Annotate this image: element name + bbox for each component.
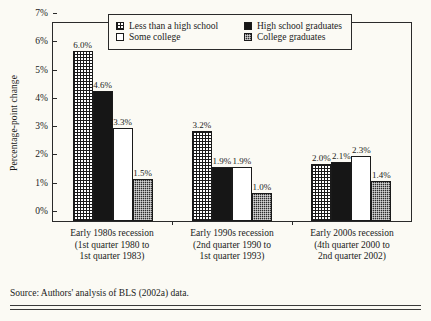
footer-rule-bottom (10, 309, 421, 310)
legend-item-college-graduates: College graduates (244, 32, 325, 42)
bar-value-label: 2.1% (332, 151, 351, 161)
category-line: (2nd quarter 1990 to (172, 240, 292, 252)
x-axis-group-separator (292, 221, 293, 225)
x-axis-category-3: Early 2000s recession(4th quarter 2000 t… (292, 228, 412, 263)
legend-label: Less than a high school (129, 21, 218, 31)
bar-value-label: 1.5% (133, 168, 152, 178)
bar: 3.3% (113, 128, 133, 221)
bar-value-label: 1.0% (253, 182, 272, 192)
bar: 1.0% (252, 193, 272, 221)
category-line: (4th quarter 2000 to (292, 240, 412, 252)
y-axis-tick-3: 3% (35, 121, 53, 131)
bar: 4.6% (93, 91, 113, 221)
bar-value-label: 4.6% (93, 80, 112, 90)
bar-value-label: 1.9% (233, 156, 252, 166)
legend-item-some-college: Some college (116, 32, 244, 42)
legend-item-less-than-high-school: Less than a high school (116, 21, 244, 31)
x-axis-category-labels: Early 1980s recession(1st quarter 1980 t… (52, 228, 412, 263)
bar-value-label: 2.3% (352, 145, 371, 155)
bar-value-label: 1.9% (213, 156, 232, 166)
bar: 2.1% (331, 162, 351, 221)
source-note: Source: Authors' analysis of BLS (2002a)… (10, 288, 189, 298)
y-axis-tick-7: 7% (35, 8, 53, 18)
x-axis-category-2: Early 1990s recession(2nd quarter 1990 t… (172, 228, 292, 263)
bar: 1.5% (133, 179, 153, 221)
category-line: (1st quarter 1980 to (52, 240, 172, 252)
bar: 1.4% (371, 181, 391, 221)
x-axis-category-1: Early 1980s recession(1st quarter 1980 t… (52, 228, 172, 263)
bar: 6.0% (73, 51, 93, 221)
y-axis-tick-5: 5% (35, 65, 53, 75)
x-axis-group-separator (172, 221, 173, 225)
y-axis-title: Percentage-point change (9, 43, 19, 203)
legend-swatch-solid-icon (244, 22, 252, 30)
legend-swatch-grid-icon (116, 22, 124, 30)
bar-group-1: 6.0%4.6%3.3%1.5% (53, 23, 172, 221)
legend-swatch-check-icon (244, 33, 252, 41)
y-axis-tick-6: 6% (35, 36, 53, 46)
y-axis-tick-0: 0% (35, 206, 53, 216)
category-line: 2nd quarter 2002) (292, 251, 412, 263)
bar-group-2: 3.2%1.9%1.9%1.0% (172, 23, 291, 221)
category-line: 1st quarter 1993) (172, 251, 292, 263)
bar: 2.3% (351, 156, 371, 221)
category-line: Early 1980s recession (52, 228, 172, 240)
bar-value-label: 6.0% (73, 40, 92, 50)
bar: 1.9% (212, 167, 232, 221)
bar-value-label: 3.3% (113, 117, 132, 127)
bar-groups: 6.0%4.6%3.3%1.5%3.2%1.9%1.9%1.0%2.0%2.1%… (53, 23, 411, 221)
footer-rule-top (10, 305, 421, 306)
bar: 3.2% (192, 131, 212, 222)
y-axis-tick-2: 2% (35, 149, 53, 159)
legend-label: High school graduates (257, 21, 342, 31)
bar-value-label: 2.0% (312, 153, 331, 163)
legend-swatch-white-icon (116, 33, 124, 41)
bar-group-3: 2.0%2.1%2.3%1.4% (292, 23, 411, 221)
category-line: Early 2000s recession (292, 228, 412, 240)
y-axis-tick-1: 1% (35, 178, 53, 188)
figure: Percentage-point change 6.0%4.6%3.3%1.5%… (0, 0, 431, 321)
y-axis-tick-4: 4% (35, 93, 53, 103)
category-line: 1st quarter 1983) (52, 251, 172, 263)
category-line: Early 1990s recession (172, 228, 292, 240)
legend-row-1: Less than a high school High school grad… (116, 21, 344, 31)
bar-value-label: 1.4% (372, 170, 391, 180)
chart-legend: Less than a high school High school grad… (108, 14, 352, 50)
legend-label: College graduates (257, 32, 325, 42)
bar-value-label: 3.2% (193, 120, 212, 130)
plot-area: 6.0%4.6%3.3%1.5%3.2%1.9%1.9%1.0%2.0%2.1%… (52, 22, 412, 222)
legend-label: Some college (129, 32, 180, 42)
legend-row-2: Some college College graduates (116, 32, 344, 42)
bar: 2.0% (311, 164, 331, 221)
legend-item-high-school-graduates: High school graduates (244, 21, 342, 31)
bar: 1.9% (232, 167, 252, 221)
